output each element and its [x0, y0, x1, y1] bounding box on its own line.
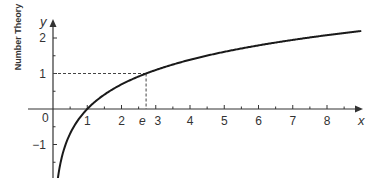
x-tick-label: 2: [118, 114, 125, 128]
x-tick-label: 8: [324, 114, 331, 128]
ln-curve: [58, 31, 362, 178]
x-tick-label: 5: [221, 114, 228, 128]
x-tick-label: 4: [187, 114, 194, 128]
y-tick-label: 2: [39, 31, 46, 45]
y-tick-label: −1: [32, 138, 46, 152]
curve: [58, 31, 362, 178]
x-axis-variable: x: [357, 113, 365, 128]
x-axis-arrow: [355, 106, 363, 113]
y-axis-title: Number Theory: [13, 4, 23, 71]
y-axis-variable: y: [39, 14, 48, 29]
x-tick-label: 7: [289, 114, 296, 128]
x-tick-label: 1: [84, 114, 91, 128]
x-tick-label: 6: [255, 114, 262, 128]
axes: [28, 19, 363, 178]
origin-label: 0: [42, 111, 49, 125]
x-tick-label: 3: [154, 114, 161, 128]
e-annotation-label: e: [139, 114, 146, 128]
y-axis-arrow: [50, 19, 57, 27]
y-tick-label: 1: [39, 67, 46, 81]
chart: 12345678−112 Number Theory y x 0 e: [0, 0, 376, 178]
ticks: 12345678−112: [32, 31, 344, 178]
